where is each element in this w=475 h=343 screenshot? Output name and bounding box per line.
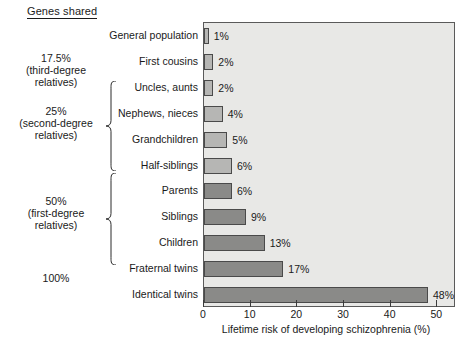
schizophrenia-risk-chart: Genes shared 17.5% (third-degree relativ… <box>0 0 475 343</box>
group-line2: (third-degree <box>26 64 86 76</box>
category-label: Half-siblings <box>90 159 198 171</box>
x-axis-tick <box>390 300 391 307</box>
bar-value-label: 1% <box>214 30 229 42</box>
group-line3: relatives) <box>35 219 78 231</box>
category-label: Children <box>90 236 198 248</box>
category-label: Identical twins <box>90 288 198 300</box>
category-label: Grandchildren <box>90 133 198 145</box>
bar-value-label: 2% <box>218 56 233 68</box>
x-axis-tick <box>296 300 297 307</box>
bar-value-label: 5% <box>232 134 247 146</box>
plot-area: 1%2%2%4%5%6%6%9%13%17%48% <box>203 22 455 307</box>
category-label: General population <box>90 29 198 41</box>
category-label-column: General populationFirst cousinsUncles, a… <box>90 0 198 343</box>
x-axis-tick-label: 50 <box>430 308 442 320</box>
bar <box>204 132 227 148</box>
bar-value-label: 2% <box>218 82 233 94</box>
x-axis-tick-label: 40 <box>384 308 396 320</box>
x-axis-tick-label: 10 <box>244 308 256 320</box>
category-label: Siblings <box>90 210 198 222</box>
bar <box>204 54 213 70</box>
bar-value-label: 6% <box>237 185 252 197</box>
group-line3: relatives) <box>35 76 78 88</box>
x-axis-title: Lifetime risk of developing schizophreni… <box>203 323 449 335</box>
bar <box>204 158 232 174</box>
group-percent: 50% <box>45 195 66 207</box>
category-label: First cousins <box>90 55 198 67</box>
x-axis-tick <box>203 300 204 307</box>
category-label: Nephews, nieces <box>90 107 198 119</box>
bar <box>204 28 209 44</box>
bar-value-label: 13% <box>270 237 291 249</box>
x-axis-tick <box>343 300 344 307</box>
group-percent: 100% <box>43 272 70 284</box>
x-axis-tick-label: 20 <box>290 308 302 320</box>
bar-value-label: 6% <box>237 160 252 172</box>
bar-value-label: 4% <box>228 108 243 120</box>
bar <box>204 209 246 225</box>
bar-value-label: 17% <box>288 263 309 275</box>
bar <box>204 106 223 122</box>
x-axis-tick-label: 0 <box>200 308 206 320</box>
group-percent: 25% <box>45 105 66 117</box>
x-axis-tick-label: 30 <box>337 308 349 320</box>
group-line3: relatives) <box>35 129 78 141</box>
bar <box>204 261 283 277</box>
group-percent: 17.5% <box>41 52 71 64</box>
group-line2: (second-degree <box>19 117 93 129</box>
category-label: Fraternal twins <box>90 262 198 274</box>
bar <box>204 183 232 199</box>
category-label: Parents <box>90 184 198 196</box>
bar <box>204 287 428 303</box>
category-label: Uncles, aunts <box>90 81 198 93</box>
x-axis-tick <box>250 300 251 307</box>
bar <box>204 235 265 251</box>
bar <box>204 80 213 96</box>
group-line2: (first-degree <box>28 207 85 219</box>
bar-value-label: 9% <box>251 211 266 223</box>
bars-layer: 1%2%2%4%5%6%6%9%13%17%48% <box>204 23 454 306</box>
x-axis-tick <box>436 300 437 307</box>
chart-title-genes-shared: Genes shared <box>27 5 97 19</box>
x-axis: Lifetime risk of developing schizophreni… <box>203 307 455 343</box>
